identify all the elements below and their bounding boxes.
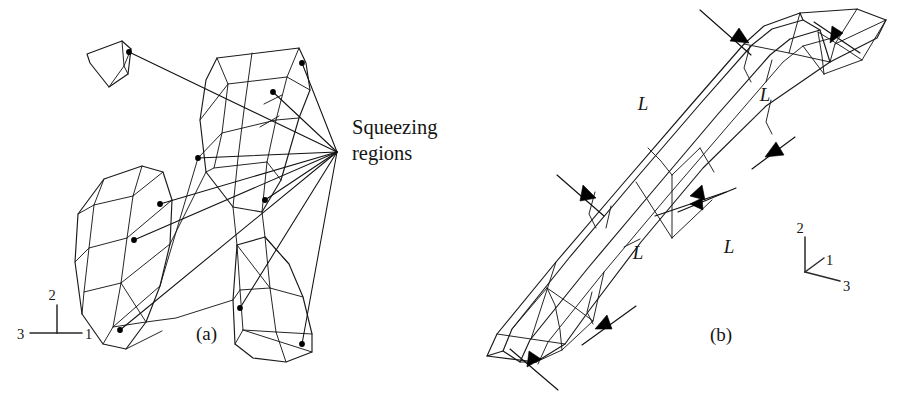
callout-leader-lines bbox=[120, 52, 337, 344]
squeezing-region-node bbox=[131, 237, 137, 243]
callout-leader-line bbox=[273, 92, 337, 152]
beam-squeeze-arrows bbox=[510, 10, 860, 390]
left-block bbox=[75, 166, 172, 349]
squeezing-region-node bbox=[270, 89, 276, 95]
panel-a-axis-label-1: 1 bbox=[85, 326, 92, 342]
squeezing-region-node bbox=[157, 201, 163, 207]
panel-b-axis-triad: 2 1 3 bbox=[796, 220, 850, 294]
panel-b-caption: (b) bbox=[710, 324, 732, 346]
callout-label-line2: regions bbox=[352, 142, 412, 165]
length-label-lower-right: L bbox=[723, 236, 735, 257]
upper-left-wedge bbox=[87, 41, 131, 87]
panel-b-axis-label-2: 2 bbox=[796, 220, 803, 236]
panel-a-axis-label-3: 3 bbox=[17, 326, 24, 342]
beam-inner-body bbox=[503, 20, 832, 364]
callout-leader-line bbox=[302, 63, 337, 152]
squeezing-region-node bbox=[117, 327, 123, 333]
panel-a-group: Squeezing regions (a) 2 1 3 bbox=[17, 41, 437, 362]
figure-root: Squeezing regions (a) 2 1 3 bbox=[0, 0, 908, 400]
squeezing-region-node bbox=[262, 197, 268, 203]
callout-leader-line bbox=[198, 152, 337, 158]
beam-outer-shell bbox=[487, 9, 886, 362]
figure-canvas: Squeezing regions (a) 2 1 3 bbox=[0, 0, 908, 400]
callout-leader-line bbox=[160, 152, 337, 204]
panel-a-axis-triad: 2 1 3 bbox=[17, 287, 92, 342]
panel-b-group: LLLL (b) 2 1 3 bbox=[487, 9, 886, 390]
callout-leader-line bbox=[265, 152, 337, 200]
panel-b-length-labels: LLLL bbox=[632, 84, 771, 263]
length-label-lower-left: L bbox=[632, 242, 644, 263]
squeezing-region-node bbox=[299, 60, 305, 66]
length-label-upper-left: L bbox=[637, 93, 649, 114]
squeezing-region-node bbox=[126, 49, 132, 55]
panel-a-axis-label-2: 2 bbox=[48, 287, 55, 303]
squeezing-region-node bbox=[299, 341, 305, 347]
squeezing-region-node bbox=[195, 155, 201, 161]
squeezing-region-node bbox=[237, 305, 243, 311]
callout-node-dots bbox=[117, 49, 305, 347]
length-label-upper-right: L bbox=[759, 84, 771, 105]
callout-label-line1: Squeezing bbox=[352, 116, 437, 139]
panel-a-caption: (a) bbox=[196, 323, 217, 345]
panel-b-axis-label-3: 3 bbox=[843, 278, 850, 294]
beam-plate-marks bbox=[587, 46, 772, 324]
panel-b-axis-label-1: 1 bbox=[826, 252, 833, 268]
